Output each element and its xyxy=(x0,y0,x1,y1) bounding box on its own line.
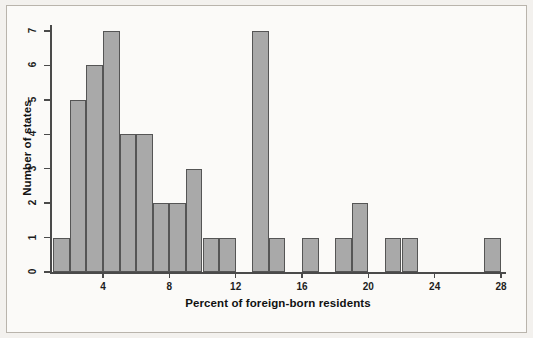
histogram-bar xyxy=(86,65,103,272)
y-axis-tick xyxy=(44,30,50,32)
histogram-bar xyxy=(103,31,120,272)
x-axis-tick xyxy=(368,272,370,278)
y-axis-tick xyxy=(44,65,50,67)
histogram-bar xyxy=(153,203,170,272)
x-axis-title: Percent of foreign-born residents xyxy=(50,297,506,309)
x-axis-tick xyxy=(301,272,303,278)
x-axis-tick-label: 4 xyxy=(88,281,118,292)
histogram-plot-area: 01234567 481216202428 Number of states P… xyxy=(0,0,533,338)
histogram-bar xyxy=(53,238,70,272)
figure-container: 01234567 481216202428 Number of states P… xyxy=(0,0,533,338)
y-axis-tick-label: 6 xyxy=(27,55,38,75)
y-axis-title: Number of states xyxy=(21,78,33,218)
histogram-bar xyxy=(169,203,186,272)
y-axis-tick xyxy=(44,202,50,204)
y-axis-tick xyxy=(44,168,50,170)
y-axis-tick xyxy=(44,271,50,273)
x-axis-line xyxy=(50,272,506,274)
histogram-bar xyxy=(335,238,352,272)
y-axis-tick xyxy=(44,237,50,239)
histogram-bar xyxy=(302,238,319,272)
y-axis-line xyxy=(50,25,52,273)
histogram-bar xyxy=(385,238,402,272)
y-axis-tick xyxy=(44,134,50,136)
x-axis-tick-label: 12 xyxy=(221,281,251,292)
histogram-bar xyxy=(70,100,87,272)
histogram-bar xyxy=(136,134,153,272)
x-axis-tick xyxy=(102,272,104,278)
x-axis-tick xyxy=(235,272,237,278)
histogram-bar xyxy=(352,203,369,272)
histogram-bar xyxy=(252,31,269,272)
x-axis-tick-label: 16 xyxy=(287,281,317,292)
y-axis-tick xyxy=(44,99,50,101)
y-axis-tick-label: 1 xyxy=(27,227,38,247)
x-axis-tick xyxy=(500,272,502,278)
x-axis-tick-label: 28 xyxy=(486,281,516,292)
y-axis-tick-label: 7 xyxy=(27,21,38,41)
histogram-bar xyxy=(402,238,419,272)
x-axis-tick-label: 8 xyxy=(154,281,184,292)
x-axis-tick xyxy=(434,272,436,278)
histogram-bar xyxy=(484,238,501,272)
histogram-bar xyxy=(186,169,203,272)
histogram-bar xyxy=(269,238,286,272)
x-axis-tick-label: 20 xyxy=(353,281,383,292)
x-axis-tick xyxy=(169,272,171,278)
histogram-bar xyxy=(203,238,220,272)
histogram-bar xyxy=(219,238,236,272)
x-axis-tick-label: 24 xyxy=(420,281,450,292)
histogram-bar xyxy=(120,134,137,272)
y-axis-tick-label: 0 xyxy=(27,262,38,282)
